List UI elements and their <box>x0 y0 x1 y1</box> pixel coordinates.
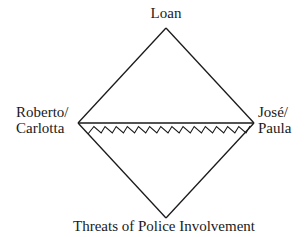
node-label-carlotta-line: Carlotta <box>16 120 69 136</box>
node-label-loan: Loan <box>0 5 306 21</box>
node-label-jose-paula: José/ Paula <box>258 104 291 136</box>
node-label-roberto-line: Roberto/ <box>16 104 69 120</box>
node-label-jose-line: José/ <box>258 104 291 120</box>
edge-left-right-zigzag-conflict <box>88 126 250 134</box>
edge-bottom-right <box>166 123 254 218</box>
node-label-paula-line: Paula <box>258 120 291 136</box>
edge-left-bottom <box>78 123 166 218</box>
node-label-threats-of-police-involvement: Threats of Police Involvement <box>0 218 306 234</box>
node-label-roberto-carlotta: Roberto/ Carlotta <box>16 104 69 136</box>
edge-left-top <box>78 28 166 123</box>
edge-top-right <box>166 28 254 123</box>
